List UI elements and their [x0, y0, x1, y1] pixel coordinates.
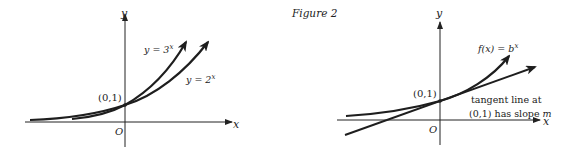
left-origin-label: O	[115, 126, 123, 137]
left-x-axis-label: x	[233, 118, 240, 131]
curve-b-to-x-label: f(x) = bx	[477, 42, 518, 54]
right-point-0-1	[438, 99, 442, 103]
tangent-label-line2: (0,1) has slope m	[469, 108, 552, 119]
curve-2-to-x-label: y = 2x	[185, 73, 215, 85]
right-origin-label: O	[429, 124, 437, 135]
right-point-label: (0,1)	[413, 88, 437, 99]
right-graph: y x O (0,1) f(x) = bx tangent line at (0…	[337, 7, 552, 145]
figure-caption: Figure 2	[291, 7, 338, 19]
left-graph: y x O (0,1) y = 3x y = 2x	[25, 7, 240, 147]
left-point-0-1	[123, 103, 127, 107]
right-y-axis-label: y	[435, 7, 443, 20]
left-point-label: (0,1)	[98, 92, 122, 103]
figure-canvas: y x O (0,1) y = 3x y = 2x Figure 2 y x O…	[0, 0, 561, 158]
tangent-label-line1: tangent line at	[471, 94, 542, 105]
left-y-axis-label: y	[120, 7, 128, 20]
curve-3-to-x-label: y = 3x	[143, 43, 173, 55]
